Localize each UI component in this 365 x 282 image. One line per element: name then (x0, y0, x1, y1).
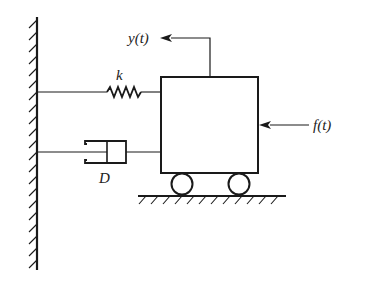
force-arrow (259, 121, 309, 129)
mass-block (161, 77, 258, 173)
fixed-wall (29, 17, 37, 270)
mass-spring-damper-diagram: k D y(t) f(t) (0, 0, 365, 282)
displacement-arrow (160, 34, 210, 77)
spring-label: k (116, 67, 123, 83)
wheel-left (172, 174, 193, 195)
ground (138, 196, 286, 204)
force-label: f(t) (313, 117, 331, 134)
spring (37, 87, 161, 97)
damper (37, 141, 161, 163)
wheels (172, 174, 250, 195)
displacement-label: y(t) (126, 30, 149, 47)
wheel-right (229, 174, 250, 195)
damper-label: D (98, 170, 110, 186)
